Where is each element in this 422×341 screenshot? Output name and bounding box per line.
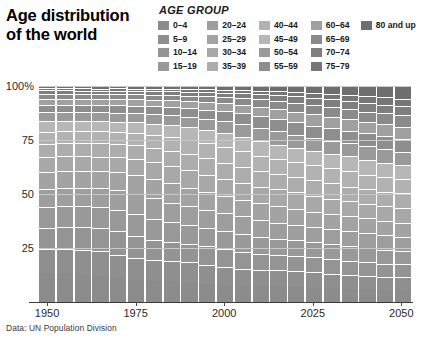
bar-segment [235, 200, 251, 217]
legend-swatch-icon [158, 62, 169, 71]
x-axis-line [29, 302, 413, 303]
bar-segment [395, 223, 411, 237]
bar-segment [128, 175, 144, 193]
legend-item[interactable]: 35–39 [207, 60, 253, 74]
bar-segment [288, 177, 304, 193]
bar-segment [395, 152, 411, 165]
legend-item[interactable]: 70–74 [311, 46, 355, 60]
bar-segment [235, 151, 251, 167]
legend-item[interactable]: 15–19 [158, 60, 201, 74]
legend-item-label: 80 and up [376, 21, 416, 30]
legend-item-label: 25–29 [222, 35, 246, 44]
bar-segment [199, 228, 215, 246]
bar-segment [39, 132, 55, 144]
bar-segment [253, 254, 269, 270]
bar-segment [181, 206, 197, 225]
bar-segment [253, 286, 269, 302]
bar-segment [217, 267, 233, 284]
bar-segment [342, 143, 358, 157]
bar-segment [324, 154, 340, 168]
bar-segment [395, 127, 411, 139]
legend-item[interactable]: 45–49 [259, 33, 305, 47]
bar-segment [377, 290, 393, 302]
bar-segment [181, 282, 197, 302]
bar-segment [395, 99, 411, 106]
legend-item[interactable]: 65–69 [311, 33, 355, 47]
legend: AGE GROUP 0–45–910–1415–1920–2425–2930–3… [158, 4, 420, 73]
legend-item[interactable]: 75–79 [311, 60, 355, 74]
legend-item[interactable]: 30–34 [207, 46, 253, 60]
y-axis-tick-label: 25 [22, 242, 34, 254]
bar-segment [164, 222, 180, 242]
legend-item[interactable]: 60–64 [311, 19, 355, 33]
bar-segment [199, 110, 215, 119]
bar-segment [395, 277, 411, 290]
legend-item-label: 55–59 [274, 62, 298, 71]
bar-segment [306, 227, 322, 242]
legend-item[interactable]: 40–44 [259, 19, 305, 33]
bar-segment [395, 106, 411, 115]
bar-segment [395, 251, 411, 264]
legend-swatch-icon [207, 21, 218, 30]
bar-segment [217, 163, 233, 180]
legend-item-label: 20–24 [222, 21, 246, 30]
legend-swatch-icon [361, 21, 372, 30]
legend-item[interactable]: 0–4 [158, 19, 201, 33]
bar-segment [359, 175, 375, 189]
bar-segment [306, 242, 322, 257]
bar-segment [146, 162, 162, 179]
legend-swatch-icon [158, 21, 169, 30]
legend-item[interactable]: 55–59 [259, 60, 305, 74]
bar-segment [39, 105, 55, 112]
bar-segment [342, 119, 358, 130]
bar-segment [92, 105, 108, 112]
bar-segment [128, 122, 144, 133]
gridline [39, 140, 411, 141]
legend-item[interactable]: 5–9 [158, 33, 201, 47]
bar-segment [359, 96, 375, 103]
bar-segment [324, 229, 340, 244]
bar-segment [306, 272, 322, 287]
legend-item[interactable]: 25–29 [207, 33, 253, 47]
chart-plot: 255075100% 19501975200020252050 [0, 76, 422, 316]
bar-segment [324, 288, 340, 302]
bar-segment [199, 119, 215, 130]
bar-segment [377, 277, 393, 290]
legend-item[interactable]: 80 and up [361, 19, 420, 33]
bar-segment [359, 146, 375, 160]
bar-segment [377, 177, 393, 191]
bar-segment [395, 165, 411, 179]
x-axis-tick-label: 2000 [212, 307, 236, 319]
bar-segment [377, 221, 393, 236]
bar-segment [306, 105, 322, 114]
bar-segment [39, 112, 55, 121]
bar-segment [57, 121, 73, 131]
bar-segment [306, 165, 322, 180]
bar-segment [395, 208, 411, 223]
legend-item[interactable]: 20–24 [207, 19, 253, 33]
bar-segment [39, 207, 55, 227]
bar-segment [377, 250, 393, 264]
y-axis-tick-label: 100% [6, 80, 34, 92]
bar-segment [164, 100, 180, 107]
bar-segment [92, 157, 108, 172]
legend-item[interactable]: 50–54 [259, 46, 305, 60]
bar-segment [75, 143, 91, 156]
legend-item-label: 50–54 [274, 48, 298, 57]
bar-segment [199, 158, 215, 175]
bar-segment [270, 270, 286, 286]
bar-segment [324, 141, 340, 154]
bar-segment [324, 274, 340, 288]
legend-item[interactable]: 10–14 [158, 46, 201, 60]
bar-segment [75, 112, 91, 121]
bar-segment [253, 237, 269, 254]
bar-segment [395, 86, 411, 98]
gridline [39, 248, 411, 249]
bar-segment [39, 157, 55, 172]
bar-segment [217, 285, 233, 302]
bar-segment [75, 206, 91, 226]
y-axis-tick-label: 50 [22, 188, 34, 200]
bar-segment [110, 210, 126, 232]
bar-segment [128, 145, 144, 159]
legend-swatch-icon [207, 48, 218, 57]
